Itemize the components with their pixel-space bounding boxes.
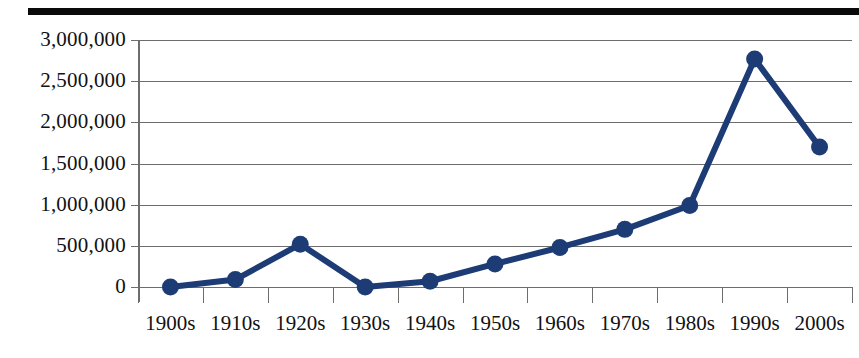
x-axis-tick-label: 1960s xyxy=(535,311,585,335)
y-axis-tick xyxy=(131,205,138,206)
x-axis-tick xyxy=(787,287,788,303)
gridline xyxy=(138,122,852,123)
y-axis-tick-label: 1,500,000 xyxy=(0,153,126,174)
x-axis-tick-label: 1990s xyxy=(730,311,780,335)
y-axis-tick xyxy=(131,40,138,41)
y-axis-tick-label: 2,500,000 xyxy=(0,70,126,91)
y-axis-tick xyxy=(131,122,138,123)
x-axis-tick-label: 1940s xyxy=(405,311,455,335)
x-axis-tick xyxy=(657,287,658,303)
gridline xyxy=(138,40,852,41)
y-axis-tick-label: 0 xyxy=(0,276,126,297)
x-axis-tick xyxy=(463,287,464,303)
x-axis-tick-label: 1980s xyxy=(665,311,715,335)
x-axis-tick xyxy=(852,287,853,303)
gridline xyxy=(138,164,852,165)
x-axis-tick xyxy=(203,287,204,303)
y-axis-tick xyxy=(131,287,138,288)
y-axis-labels: 0500,0001,000,0001,500,0002,000,0002,500… xyxy=(0,0,126,358)
x-axis-tick xyxy=(138,287,139,303)
x-axis-ticks xyxy=(138,287,852,305)
x-axis-tick xyxy=(722,287,723,303)
gridline xyxy=(138,81,852,82)
x-axis-tick-label: 1920s xyxy=(275,311,325,335)
x-axis-tick-label: 1930s xyxy=(340,311,390,335)
x-axis-tick-label: 1900s xyxy=(145,311,195,335)
y-axis-tick xyxy=(131,81,138,82)
y-axis-tick-label: 500,000 xyxy=(0,235,126,256)
y-axis-tick xyxy=(131,246,138,247)
gridline xyxy=(138,205,852,206)
x-axis-tick xyxy=(333,287,334,303)
x-axis-tick xyxy=(268,287,269,303)
x-axis-labels: 1900s1910s1920s1930s1940s1950s1960s1970s… xyxy=(138,311,859,351)
gridline xyxy=(138,246,852,247)
x-axis-tick-label: 2000s xyxy=(794,311,844,335)
x-axis-tick xyxy=(398,287,399,303)
y-axis-tick-label: 2,000,000 xyxy=(0,111,126,132)
y-axis-tick-label: 3,000,000 xyxy=(0,29,126,50)
x-axis-tick xyxy=(527,287,528,303)
plot-area xyxy=(138,40,852,287)
x-axis-tick-label: 1910s xyxy=(210,311,260,335)
y-axis-tick xyxy=(131,164,138,165)
x-axis-tick-label: 1950s xyxy=(470,311,520,335)
x-axis-tick-label: 1970s xyxy=(600,311,650,335)
y-axis-tick-label: 1,000,000 xyxy=(0,194,126,215)
top-divider-rule xyxy=(28,8,859,15)
x-axis-tick xyxy=(592,287,593,303)
line-chart: 0500,0001,000,0001,500,0002,000,0002,500… xyxy=(0,0,859,358)
